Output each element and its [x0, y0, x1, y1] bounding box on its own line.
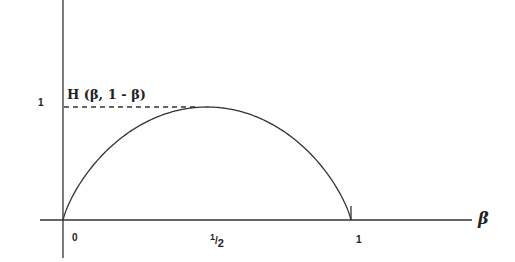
x-tick-half: 1/2	[210, 232, 224, 249]
y-tick-1: 1	[38, 97, 44, 108]
x-tick-1: 1	[356, 234, 362, 245]
curve-label: H (β, 1 - β)	[67, 87, 146, 102]
entropy-curve	[63, 107, 351, 220]
plot-area	[0, 0, 515, 262]
x-tick-0: 0	[72, 232, 78, 243]
x-tick-half-numerator: 1	[210, 232, 215, 242]
x-axis-label: β	[478, 209, 489, 228]
x-tick-half-denominator: 2	[218, 237, 224, 249]
